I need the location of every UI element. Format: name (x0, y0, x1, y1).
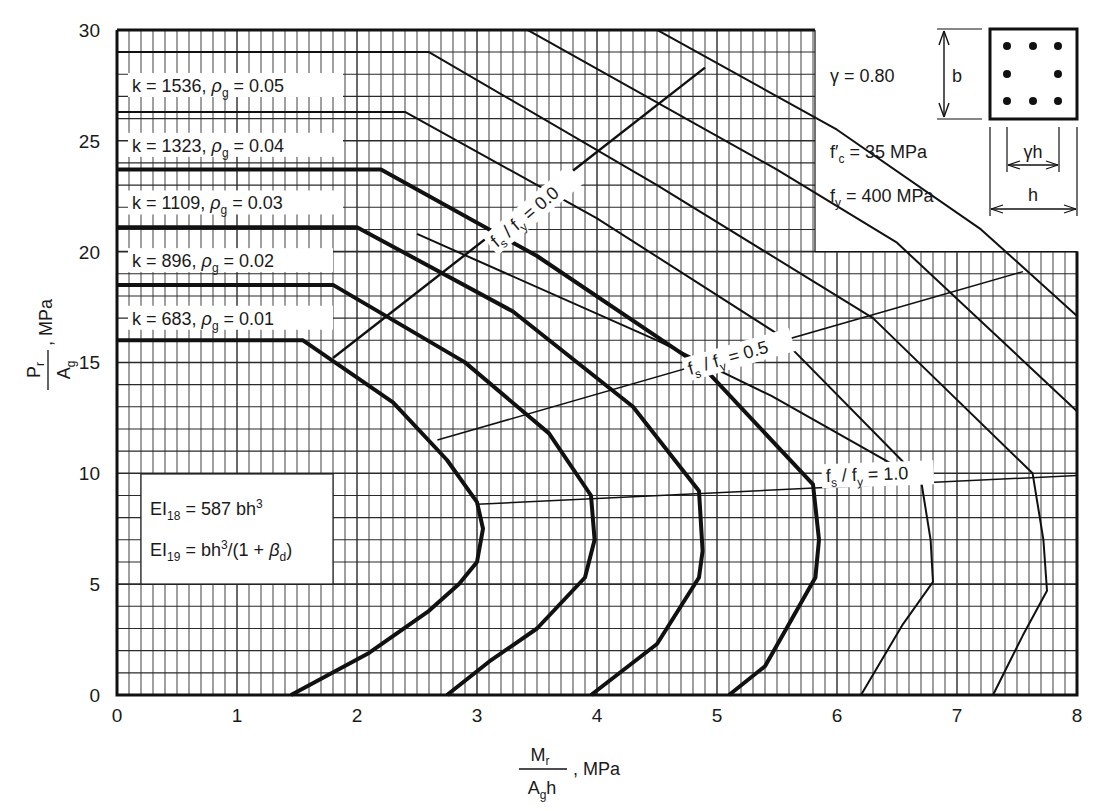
rebar-dot (1054, 42, 1062, 50)
y-tick-label: 5 (89, 574, 100, 595)
x-tick-label: 1 (232, 705, 243, 726)
x-tick-label: 4 (592, 705, 603, 726)
svg-text:Pr: Pr (24, 362, 47, 378)
x-tick-label: 6 (832, 705, 843, 726)
rebar-dot (1029, 42, 1037, 50)
y-tick-label: 25 (79, 131, 100, 152)
rebar-dot (1029, 97, 1037, 105)
y-tick-label: 0 (89, 685, 100, 706)
x-tick-label: 5 (712, 705, 723, 726)
rebar-dot (1054, 70, 1062, 78)
y-tick-label: 20 (79, 242, 100, 263)
x-tick-label: 0 (112, 705, 123, 726)
rebar-dot (1003, 97, 1011, 105)
y-tick-label: 15 (79, 352, 100, 373)
x-tick-label: 2 (352, 705, 363, 726)
rebar-dot (1003, 70, 1011, 78)
svg-text:Ag: Ag (54, 361, 78, 380)
y-tick-label: 30 (79, 20, 100, 41)
interaction-diagram: 012345678051015202530 k = 1536, ρg = 0.0… (0, 0, 1098, 811)
fs-fy-label: fs / fy = 0.0 (487, 183, 566, 254)
svg-text:Mr: Mr (531, 745, 550, 768)
svg-text:, MPa: , MPa (573, 759, 621, 779)
svg-text:, MPa: , MPa (36, 298, 56, 346)
interaction-curve (417, 234, 901, 469)
y-tick-label: 10 (79, 463, 100, 484)
rebar-dot (1054, 97, 1062, 105)
y-axis-title: PrAg, MPa (24, 298, 78, 390)
annotations: k = 1536, ρg = 0.05k = 1323, ρg = 0.04k … (24, 29, 1077, 802)
svg-text:Agh: Agh (528, 778, 557, 802)
ei-box (141, 474, 333, 584)
svg-text:γh: γh (1023, 142, 1042, 162)
x-tick-label: 3 (472, 705, 483, 726)
svg-text:h: h (1028, 185, 1038, 205)
x-axis-title: MrAgh, MPa (519, 745, 621, 802)
x-tick-label: 7 (952, 705, 963, 726)
rebar-dot (1003, 42, 1011, 50)
svg-text:b: b (952, 66, 962, 86)
gamma-label: γ = 0.80 (830, 66, 895, 86)
x-tick-label: 8 (1072, 705, 1083, 726)
